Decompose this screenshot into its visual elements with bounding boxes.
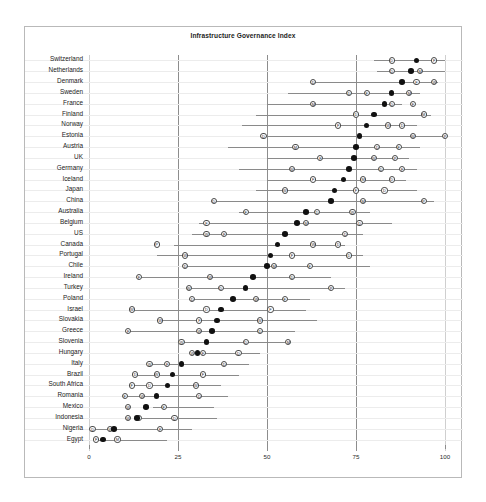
source-marker-f-icon: F (410, 101, 416, 107)
y-axis-label-france: France (63, 99, 83, 106)
range-line (189, 299, 310, 300)
source-marker-d-icon: D (389, 101, 395, 107)
range-line (132, 385, 221, 386)
source-marker-d-icon: D (243, 339, 249, 345)
index-value-dot (209, 328, 215, 334)
source-marker-f-icon: F (353, 187, 359, 193)
y-axis-label-australia: Australia (58, 207, 83, 214)
source-marker-m-icon: M (360, 176, 366, 182)
index-value-dot (346, 166, 352, 172)
source-marker-f-icon: F (122, 393, 128, 399)
y-axis-label-indonesia: Indonesia (55, 413, 83, 420)
source-marker-p-icon: P (442, 133, 448, 139)
index-value-dot (371, 112, 377, 118)
source-marker-d-icon: D (189, 296, 195, 302)
chart-title: Infrastructure Governance Index (25, 32, 461, 39)
source-marker-d-icon: D (218, 285, 224, 291)
source-marker-f-icon: F (310, 176, 316, 182)
index-value-dot (357, 133, 363, 139)
y-axis-label-japan: Japan (66, 185, 83, 192)
y-axis-label-mexico: Mexico (63, 402, 83, 409)
index-value-dot (328, 198, 334, 204)
source-marker-f-icon: F (289, 252, 295, 258)
index-value-dot (243, 285, 249, 291)
source-marker-w-icon: W (154, 371, 160, 377)
x-tick-100 (445, 445, 446, 449)
source-marker-w-icon: W (282, 187, 288, 193)
source-marker-d-icon: D (203, 306, 209, 312)
source-marker-f-icon: F (129, 382, 135, 388)
source-marker-d-icon: D (378, 166, 384, 172)
y-axis-label-slovakia: Slovakia (59, 315, 83, 322)
source-marker-w-icon: W (125, 404, 131, 410)
row-gridline (25, 440, 463, 441)
source-marker-w-icon: W (289, 166, 295, 172)
source-marker-w-icon: W (157, 317, 163, 323)
source-marker-d-icon: D (132, 371, 138, 377)
source-marker-w-icon: W (129, 306, 135, 312)
source-marker-d-icon: D (346, 90, 352, 96)
range-line (160, 320, 317, 321)
x-tick-label: 25 (175, 453, 182, 460)
y-axis-label-italy: Italy (71, 359, 83, 366)
range-line (239, 169, 417, 170)
source-marker-f-icon: F (399, 166, 405, 172)
y-axis-label-belgium: Belgium (60, 218, 83, 225)
source-marker-d-icon: D (399, 122, 405, 128)
y-axis-label-egypt: Egypt (67, 435, 83, 442)
source-marker-f-icon: F (413, 79, 419, 85)
source-marker-d-icon: D (235, 350, 241, 356)
x-tick-label: 0 (87, 453, 90, 460)
y-axis-label-norway: Norway (61, 120, 83, 127)
source-marker-d-icon: D (146, 382, 152, 388)
range-line (214, 201, 435, 202)
range-line (135, 375, 238, 376)
index-value-dot (294, 220, 300, 226)
y-axis-label-uk: UK (74, 153, 83, 160)
y-axis-label-ireland: Ireland (63, 272, 83, 279)
y-axis-label-austria: Austria (63, 142, 83, 149)
y-axis-label-nigeria: Nigeria (63, 424, 83, 431)
source-marker-d-icon: D (314, 209, 320, 215)
source-marker-f-icon: F (164, 361, 170, 367)
source-marker-f-icon: F (200, 350, 206, 356)
source-marker-m-icon: M (285, 339, 291, 345)
range-line (142, 418, 217, 419)
source-marker-f-icon: F (125, 328, 131, 334)
y-axis-label-canada: Canada (61, 240, 83, 247)
index-value-dot (341, 177, 347, 183)
y-axis-label-poland: Poland (63, 294, 83, 301)
x-tick-label: 100 (440, 453, 450, 460)
plot-area: 0255075100SwitzerlandDFNetherlandsDMDenm… (89, 55, 445, 445)
index-value-dot (100, 437, 106, 443)
index-value-dot (264, 263, 270, 269)
source-marker-w-icon: W (207, 274, 213, 280)
index-value-dot (134, 415, 140, 421)
index-value-dot (332, 188, 338, 194)
y-axis-label-sweden: Sweden (60, 88, 83, 95)
index-value-dot (351, 155, 357, 161)
index-value-dot (230, 296, 236, 302)
range-line (96, 440, 167, 441)
source-marker-d-icon: D (289, 274, 295, 280)
source-marker-w-icon: W (146, 361, 152, 367)
y-axis-label-switzerland: Switzerland (50, 55, 83, 62)
source-marker-m-icon: M (310, 101, 316, 107)
source-marker-f-icon: F (335, 122, 341, 128)
source-marker-f-icon: F (157, 426, 163, 432)
index-value-dot (165, 383, 171, 389)
source-marker-f-icon: F (282, 296, 288, 302)
source-marker-w-icon: W (385, 122, 391, 128)
y-axis-label-brazil: Brazil (67, 370, 83, 377)
source-marker-f-icon: F (203, 220, 209, 226)
source-marker-f-icon: F (307, 263, 313, 269)
source-marker-d-icon: D (381, 187, 387, 193)
x-tick-0 (89, 445, 90, 449)
y-axis-label-greece: Greece (62, 326, 83, 333)
source-marker-f-icon: F (221, 231, 227, 237)
x-tick-75 (356, 445, 357, 449)
source-marker-d-icon: D (389, 57, 395, 63)
chart-frame: Infrastructure Governance Index 02550751… (24, 26, 462, 478)
range-line (182, 342, 285, 343)
source-marker-w-icon: W (193, 382, 199, 388)
